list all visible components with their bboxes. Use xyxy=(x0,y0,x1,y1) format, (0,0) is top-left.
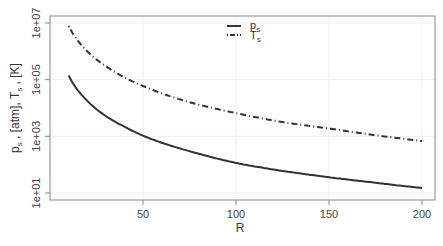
y-tick-label: 1e+01 xyxy=(30,178,42,209)
x-axis: 50100150200 xyxy=(137,200,431,220)
y-tick-label: 1e+03 xyxy=(30,121,42,152)
y-axis-title: ps , [atm], Ts , [K] xyxy=(8,63,24,153)
x-tick-label: 200 xyxy=(413,208,431,220)
x-axis-title: R xyxy=(236,221,245,235)
grid-lines xyxy=(50,16,435,200)
x-tick-label: 50 xyxy=(137,208,149,220)
x-tick-label: 150 xyxy=(320,208,338,220)
x-tick-label: 100 xyxy=(227,208,245,220)
y-tick-label: 1e+07 xyxy=(30,8,42,39)
series-ts-line xyxy=(69,26,422,141)
chart: 50100150200 1e+011e+031e+051e+07 R ps , … xyxy=(0,0,443,246)
svg-text:ps , [atm], Ts , [K]: ps , [atm], Ts , [K] xyxy=(8,63,24,153)
series-ps-line xyxy=(69,76,422,189)
y-tick-label: 1e+05 xyxy=(30,64,42,95)
series-lines xyxy=(69,26,422,188)
plot-frame xyxy=(50,16,435,200)
y-axis: 1e+011e+031e+051e+07 xyxy=(30,8,50,209)
